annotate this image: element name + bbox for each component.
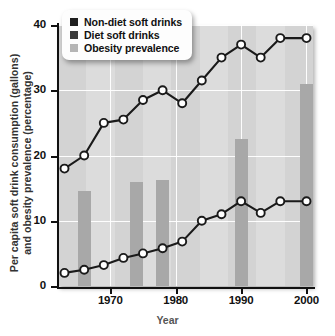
plot-area [58, 25, 313, 286]
line-series-group [58, 25, 313, 286]
data-point-marker [159, 86, 167, 94]
data-point-marker [100, 261, 108, 269]
y-axis-tick-label: 40 [6, 18, 46, 30]
y-axis-tick [51, 156, 58, 158]
data-point-marker [276, 34, 284, 42]
data-point-marker [198, 217, 206, 225]
legend-label-diet: Diet soft drinks [84, 29, 160, 41]
data-point-marker [61, 165, 69, 173]
y-axis-tick-label: 20 [6, 149, 46, 161]
data-point-marker [139, 249, 147, 257]
x-axis-tick-label: 1980 [154, 294, 198, 306]
y-axis-tick [51, 286, 58, 288]
data-point-marker [61, 269, 69, 277]
data-point-marker [178, 238, 186, 246]
data-point-marker [257, 209, 265, 217]
y-axis-tick [51, 90, 58, 92]
legend-swatch-non-diet [70, 18, 78, 26]
x-axis-line [57, 287, 315, 289]
y-axis-tick-label: 10 [6, 214, 46, 226]
legend-swatch-obesity [70, 44, 78, 52]
data-point-marker [159, 244, 167, 252]
y-axis-tick [51, 221, 58, 223]
x-axis-tick-label: 1970 [88, 294, 132, 306]
data-point-marker [218, 210, 226, 218]
y-axis-title-line2: and obesity prevalence (percentage) [21, 71, 33, 255]
data-point-marker [237, 197, 245, 205]
data-point-marker [100, 119, 108, 127]
y-axis-title: Per capita soft drink consumption (gallo… [8, 38, 34, 288]
data-point-marker [80, 266, 88, 274]
legend-item-obesity: Obesity prevalence [70, 42, 182, 54]
legend-item-diet: Diet soft drinks [70, 29, 182, 41]
data-point-marker [119, 116, 127, 124]
data-point-marker [119, 254, 127, 262]
data-point-marker [178, 99, 186, 107]
chart-legend: Non-diet soft drinks Diet soft drinks Ob… [62, 10, 192, 60]
data-point-marker [257, 54, 265, 62]
legend-label-obesity: Obesity prevalence [84, 42, 179, 54]
chart-figure: Per capita soft drink consumption (gallo… [0, 0, 335, 336]
x-axis-tick-label: 1990 [219, 294, 263, 306]
x-axis-title: Year [0, 314, 335, 326]
data-point-marker [218, 54, 226, 62]
legend-label-non-diet: Non-diet soft drinks [84, 16, 182, 28]
data-point-marker [237, 41, 245, 49]
y-axis-tick-label: 0 [6, 279, 46, 291]
data-point-marker [303, 34, 311, 42]
data-point-marker [80, 152, 88, 160]
data-point-marker [139, 96, 147, 104]
x-axis-tick-label: 2000 [284, 294, 328, 306]
data-point-marker [303, 197, 311, 205]
legend-swatch-diet [70, 31, 78, 39]
data-point-marker [198, 77, 206, 85]
y-axis-tick [51, 25, 58, 27]
y-axis-tick-label: 30 [6, 83, 46, 95]
legend-item-non-diet: Non-diet soft drinks [70, 16, 182, 28]
data-point-marker [276, 197, 284, 205]
